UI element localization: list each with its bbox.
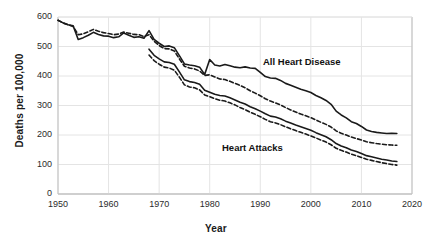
chart-container: Deaths per 100,000 Year 0100200300400500… [0,0,432,247]
x-tick-label: 1990 [240,199,280,209]
x-tick-label: 1950 [38,199,78,209]
y-tick-label: 400 [20,70,52,80]
x-tick-label: 2020 [392,199,432,209]
y-tick-label: 300 [20,100,52,110]
series-label-all-heart-disease: All Heart Disease [263,56,341,67]
line-chart-plot [0,0,432,247]
x-tick-label: 2000 [291,199,331,209]
x-tick-label: 1960 [89,199,129,209]
y-tick-label: 200 [20,129,52,139]
series-label-heart-attacks: Heart Attacks [222,142,283,153]
y-tick-label: 500 [20,41,52,51]
x-tick-label: 1970 [139,199,179,209]
x-axis-title: Year [0,223,432,234]
x-tick-label: 1980 [190,199,230,209]
y-tick-label: 0 [20,188,52,198]
x-tick-label: 2010 [341,199,381,209]
y-tick-label: 100 [20,159,52,169]
y-tick-label: 600 [20,11,52,21]
